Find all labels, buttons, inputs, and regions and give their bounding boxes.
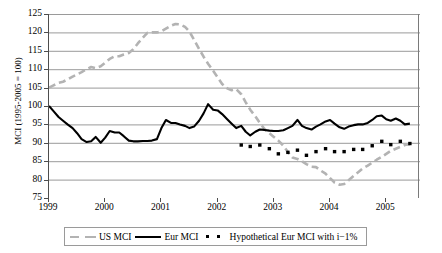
dotted-line-icon: [203, 232, 227, 241]
data-marker: [399, 140, 402, 143]
legend-label-us-mci: US MCI: [99, 232, 131, 242]
data-marker: [268, 147, 271, 150]
y-tick-label-115: 115: [18, 46, 42, 56]
data-marker: [296, 148, 299, 151]
x-tick-label-2005: 2005: [365, 202, 405, 212]
y-tick-label-120: 120: [18, 27, 42, 37]
x-tick-label-1999: 1999: [28, 202, 68, 212]
x-tick-mark-2000: [104, 198, 105, 202]
y-tick-label-90: 90: [18, 138, 42, 148]
data-marker: [352, 148, 355, 151]
x-tick-label-2000: 2000: [84, 202, 124, 212]
data-marker: [286, 151, 289, 154]
data-marker: [249, 145, 252, 148]
x-tick-mark-1999: [48, 198, 49, 202]
plot-area: [48, 14, 419, 198]
x-tick-mark-2001: [160, 198, 161, 202]
y-tick-label-95: 95: [18, 119, 42, 129]
data-marker: [324, 147, 327, 150]
y-tick-label-110: 110: [18, 64, 42, 74]
chart-figure: MCI (1995-2005 = 100) 125120115110105100…: [0, 0, 442, 253]
data-marker: [240, 143, 243, 146]
legend-item-eur-mci: Eur MCI: [135, 232, 202, 242]
y-tick-label-125: 125: [18, 9, 42, 19]
data-marker: [408, 142, 411, 145]
data-marker: [258, 143, 261, 146]
data-marker: [361, 148, 364, 151]
data-marker: [277, 152, 280, 155]
x-tick-label-2002: 2002: [197, 202, 237, 212]
legend-item-us-mci: US MCI: [70, 232, 135, 242]
x-tick-label-2003: 2003: [253, 202, 293, 212]
data-marker: [371, 144, 374, 147]
x-tick-mark-2005: [385, 198, 386, 202]
series-line-0: [49, 24, 410, 185]
y-tick-label-105: 105: [18, 83, 42, 93]
data-marker: [333, 150, 336, 153]
legend-label-eur-mci: Eur MCI: [164, 232, 198, 242]
y-tick-label-85: 85: [18, 156, 42, 166]
solid-line-icon: [135, 232, 161, 241]
data-marker: [389, 143, 392, 146]
y-tick-label-80: 80: [18, 175, 42, 185]
x-tick-mark-2002: [217, 198, 218, 202]
x-tick-mark-2003: [273, 198, 274, 202]
data-series-layer: [49, 14, 420, 198]
legend-label-hypothetical: Hypothetical Eur MCI with i−1%: [230, 232, 358, 242]
series-line-1: [49, 104, 410, 143]
x-tick-label-2001: 2001: [140, 202, 180, 212]
y-tick-label-100: 100: [18, 101, 42, 111]
legend-item-hypothetical: Hypothetical Eur MCI with i−1%: [203, 232, 362, 242]
data-marker: [342, 150, 345, 153]
data-marker: [314, 150, 317, 153]
x-tick-mark-2004: [329, 198, 330, 202]
chart-legend: US MCI Eur MCI Hypothetical Eur MCI with…: [64, 227, 367, 246]
data-marker: [380, 140, 383, 143]
dashed-line-icon: [70, 232, 96, 241]
x-tick-label-2004: 2004: [309, 202, 349, 212]
data-marker: [305, 154, 308, 157]
